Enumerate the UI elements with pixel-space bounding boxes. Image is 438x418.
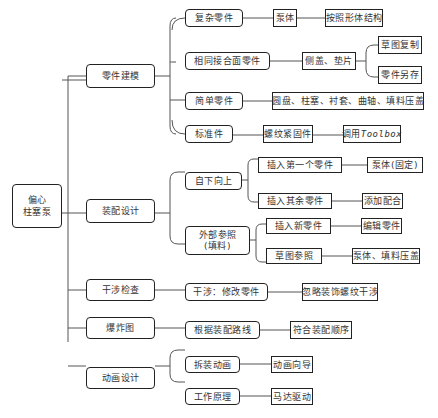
external-reference-label: 外部参照 xyxy=(199,230,237,241)
insert-other-parts[interactable]: 插入其余零件 xyxy=(258,193,332,209)
simple-part-list[interactable]: 圆盘、柱塞、衬套、曲轴、填料压盖 xyxy=(272,92,424,110)
branch-part-modeling[interactable]: 零件建模 xyxy=(86,64,155,88)
complex-part[interactable]: 复杂零件 xyxy=(185,9,243,27)
standard-part[interactable]: 标准件 xyxy=(185,125,233,143)
by-shape-structure[interactable]: 按照形体结构 xyxy=(325,9,383,27)
toolbox-label: Toolbox xyxy=(361,128,402,140)
same-joint-surface-part[interactable]: 相同接合面零件 xyxy=(185,52,270,70)
pump-body-fixed[interactable]: 泵体(固定) xyxy=(367,157,423,173)
add-mate[interactable]: 添加配合 xyxy=(362,193,403,209)
ignore-cosmetic-thread[interactable]: 忽略装饰螺纹干涉 xyxy=(302,283,378,301)
root-label-2: 柱塞泵 xyxy=(23,206,52,218)
call-toolbox[interactable]: 调用Toolbox xyxy=(343,125,401,143)
threaded-fastener[interactable]: 螺纹紧固件 xyxy=(263,125,313,143)
sketch-copy[interactable]: 草图复制 xyxy=(378,36,422,54)
disassembly-animation[interactable]: 拆装动画 xyxy=(185,356,240,373)
pump-body[interactable]: 泵体 xyxy=(273,9,297,27)
by-assembly-route[interactable]: 根据装配路线 xyxy=(185,321,260,339)
external-reference-sub: (填料) xyxy=(204,241,231,252)
motor-drive[interactable]: 马达驱动 xyxy=(271,388,313,405)
branch-animation-design[interactable]: 动画设计 xyxy=(86,367,155,389)
root-label-1: 偏心 xyxy=(28,194,47,206)
call-toolbox-prefix: 调用 xyxy=(342,128,361,140)
root-node[interactable]: 偏心 柱塞泵 xyxy=(12,184,62,228)
external-reference[interactable]: 外部参照 (填料) xyxy=(185,226,250,255)
pump-body-packing-gland[interactable]: 泵体、填料压盖 xyxy=(352,248,420,264)
insert-first-part[interactable]: 插入第一个零件 xyxy=(258,157,342,173)
bottom-up[interactable]: 自下向上 xyxy=(185,172,242,190)
working-principle[interactable]: 工作原理 xyxy=(185,388,240,405)
insert-new-part[interactable]: 插入新零件 xyxy=(266,218,331,234)
simple-part[interactable]: 简单零件 xyxy=(185,92,243,110)
sketch-reference[interactable]: 草图参照 xyxy=(266,248,322,264)
branch-exploded-view[interactable]: 爆炸图 xyxy=(86,317,155,339)
interference-modify-part[interactable]: 干涉：修改零件 xyxy=(185,283,268,301)
edit-part[interactable]: 编辑零件 xyxy=(361,218,402,234)
side-cover-gasket[interactable]: 侧盖、垫片 xyxy=(302,52,356,70)
branch-interference-check[interactable]: 干涉检查 xyxy=(86,279,155,301)
branch-assembly-design[interactable]: 装配设计 xyxy=(86,199,155,223)
match-assembly-order[interactable]: 符合装配顺序 xyxy=(290,321,352,339)
part-save-as[interactable]: 零件另存 xyxy=(378,66,422,84)
animation-wizard[interactable]: 动画向导 xyxy=(271,356,313,373)
